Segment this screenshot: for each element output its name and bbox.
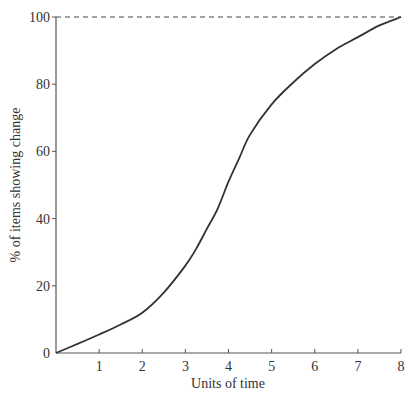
x-tick-label: 5 [268,359,275,374]
x-tick-label: 6 [311,359,318,374]
y-tick-label: 0 [43,346,50,361]
y-axis-title: % of items showing change [8,108,23,263]
x-tick-label: 8 [398,359,405,374]
x-tick-label: 7 [354,359,361,374]
y-tick-label: 20 [36,279,50,294]
y-tick-label: 80 [36,77,50,92]
y-tick-label: 60 [36,144,50,159]
x-tick-label: 2 [139,359,146,374]
x-axis-title: Units of time [191,376,265,391]
y-tick-label: 100 [29,10,50,25]
x-tick-label: 4 [225,359,232,374]
x-tick-label: 1 [96,359,103,374]
chart: 02040608010012345678 Units of time % of … [0,0,410,395]
y-tick-label: 40 [36,212,50,227]
data-curve [56,17,401,353]
plot-area: 02040608010012345678 [29,10,405,374]
x-tick-label: 3 [182,359,189,374]
